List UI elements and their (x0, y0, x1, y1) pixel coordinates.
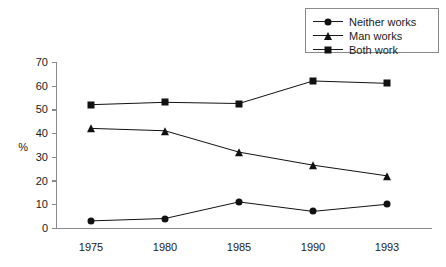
legend-item-label: Neither works (349, 16, 416, 28)
data-point-triangle-icon (383, 172, 391, 180)
data-point-triangle-icon (309, 161, 317, 169)
x-tick-label: 1990 (301, 241, 325, 253)
data-point-circle-icon (310, 208, 317, 215)
y-tick-label: 50 (22, 103, 48, 115)
y-tick-label: 30 (22, 151, 48, 163)
data-point-triangle-icon (87, 125, 95, 133)
x-tick-label: 1980 (153, 241, 177, 253)
data-point-triangle-icon (235, 148, 243, 156)
legend-sample-square (313, 44, 343, 56)
legend-sample-triangle (313, 30, 343, 42)
y-tick-label: 70 (22, 56, 48, 68)
legend-item-label: Both work (349, 44, 398, 56)
data-point-square-icon (88, 101, 95, 108)
data-point-square-icon (236, 100, 243, 107)
legend-item-circle: Neither works (313, 15, 416, 29)
legend-triangle-icon (324, 32, 332, 40)
data-point-square-icon (384, 80, 391, 87)
y-tick-label: 60 (22, 80, 48, 92)
data-point-circle-icon (236, 198, 243, 205)
legend-circle-icon (325, 19, 332, 26)
y-tick-label: 20 (22, 175, 48, 187)
data-point-triangle-icon (161, 127, 169, 135)
y-tick-label: 40 (22, 127, 48, 139)
legend-square-icon (325, 47, 332, 54)
legend-sample-circle (313, 16, 343, 28)
y-tick-label: 10 (22, 198, 48, 210)
legend-item-label: Man works (349, 30, 402, 42)
chart-legend: Neither worksMan worksBoth work (305, 8, 439, 53)
legend-item-square: Both work (313, 43, 398, 57)
legend-item-triangle: Man works (313, 29, 402, 43)
data-point-circle-icon (384, 201, 391, 208)
data-point-circle-icon (162, 215, 169, 222)
y-tick-label: 0 (22, 222, 48, 234)
data-point-square-icon (162, 99, 169, 106)
data-point-circle-icon (88, 217, 95, 224)
data-point-square-icon (310, 77, 317, 84)
x-tick-label: 1975 (79, 241, 103, 253)
line-chart: % 010203040506070 19751980198519901993 N… (0, 0, 446, 267)
x-tick-label: 1993 (375, 241, 399, 253)
x-tick-label: 1985 (227, 241, 251, 253)
